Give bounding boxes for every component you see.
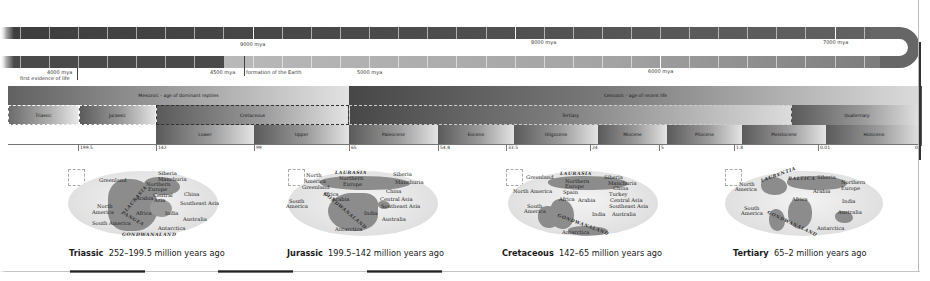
map-label: China [184, 192, 199, 198]
map-label: Africa [559, 197, 575, 203]
caption-jurassic: Jurassic 199.5–142 million years ago [287, 248, 444, 258]
axis-tick: 54.8 [438, 145, 450, 151]
segment-tick [544, 27, 545, 39]
bottom-accent [218, 270, 293, 273]
caption-triassic: Triassic 252–199.5 million years ago [69, 248, 225, 258]
segment-tick [194, 27, 195, 39]
map-label: Australia [382, 217, 406, 223]
map-panel-tertiary: LAURENTIA BALTICA Siberia North America … [725, 166, 930, 246]
map-label-supercontinent: GONDWANALAND [122, 232, 176, 238]
map-label: America [741, 211, 763, 217]
map-label: Siberia [393, 172, 412, 178]
page-left-fade [0, 0, 6, 281]
period-label: Cretaceous [240, 113, 265, 118]
map-label: Central Asia [380, 197, 413, 203]
axis-tick: 99 [254, 145, 262, 151]
axis-tick: 65 [349, 145, 357, 151]
period-triassic: Triassic [8, 105, 79, 125]
segment-tick [631, 56, 632, 68]
map-label: America [524, 209, 546, 215]
segment-tick [136, 27, 137, 39]
segment-tick [573, 27, 574, 39]
epoch-label: Lower [198, 132, 211, 137]
map-label: Australia [838, 210, 862, 216]
segment-tick [864, 27, 865, 39]
segment-tick [49, 27, 50, 39]
segment-tick [78, 56, 79, 68]
map-label: North America [513, 189, 552, 195]
epoch-label: Eocene [468, 132, 484, 137]
segment-tick [864, 56, 865, 68]
axis-tick: 199.5 [78, 145, 93, 151]
map-label: Antarctica [562, 230, 589, 236]
period-label: Quaternary [844, 113, 870, 118]
segment-tick [282, 27, 283, 39]
map-label: Southeast Asia [180, 201, 219, 207]
era-mesozoic: Mesozoic - age of dominant reptiles [8, 86, 349, 105]
map-panel-triassic: Greenland Siberia Manchuria Northern Eur… [60, 166, 270, 246]
epoch-pliocene: Pliocene [667, 125, 742, 144]
segment-tick [165, 56, 166, 68]
era-label: Cenozoic - age of recent life [604, 93, 667, 98]
map-label: Europe [841, 186, 860, 192]
page-right-bar [919, 42, 921, 160]
epoch-lower: Lower [156, 125, 254, 144]
caption-range: 252–199.5 million years ago [109, 248, 225, 258]
era-label: Mesozoic - age of dominant reptiles [138, 93, 218, 98]
epoch-label: Upper [295, 132, 309, 137]
segment-tick [486, 56, 487, 68]
label-first-evidence-of-life: first evidence of life [20, 75, 70, 81]
bottom-accent [70, 270, 145, 273]
period-label: Tertiary [562, 113, 579, 118]
segment-tick [660, 56, 661, 68]
segment-tick [398, 27, 399, 39]
segment-tick [49, 56, 50, 68]
axis-tick: 33.5 [506, 145, 518, 151]
axis-tick: 5 [659, 145, 664, 151]
axis-tick: 24 [590, 145, 598, 151]
caption-range: 199.5–142 million years ago [328, 248, 444, 258]
map-label: Africa [136, 211, 152, 217]
segment-tick [515, 56, 516, 68]
map-label: Antarctica [335, 227, 362, 233]
map-label-supercontinent: BALTICA [788, 176, 815, 182]
label-5000-mya: 5000 mya [357, 69, 382, 75]
map-label: Southeast Asia [381, 204, 420, 210]
epoch-label: Holocene [863, 132, 884, 137]
epoch-miocene: Miocene [598, 125, 667, 144]
earth-formation-marker [244, 56, 245, 76]
epoch-label: Oligocene [545, 132, 568, 137]
segment-tick [602, 27, 603, 39]
label-7000-mya: 7000 mya [823, 39, 848, 45]
segment-tick [427, 27, 428, 39]
map-label: Antarctica [817, 226, 844, 232]
epoch-oligocene: Oligocene [514, 125, 598, 144]
map-label: Asia [154, 198, 165, 204]
caption-tertiary: Tertiary 65–2 million years ago [733, 248, 867, 258]
segment-tick [340, 56, 341, 68]
placeholder-box [506, 169, 523, 186]
period-quaternary: Quaternary [792, 105, 922, 125]
caption-period: Triassic [69, 248, 103, 258]
map-label: Australia [612, 212, 636, 218]
segment-tick [835, 56, 836, 68]
segment-tick [107, 56, 108, 68]
map-panel-jurassic: North America LAURASIA Siberia Northern … [285, 166, 495, 246]
segment-tick [602, 56, 603, 68]
map-label: Greenland [526, 175, 554, 181]
map-label: Arabia [813, 189, 830, 195]
caption-period: Cretaceous [502, 248, 554, 258]
bottom-accent [367, 270, 442, 273]
segment-tick [776, 27, 777, 39]
epoch-label: Miocene [623, 132, 642, 137]
map-label: Australia [183, 217, 207, 223]
segment-tick [78, 27, 79, 39]
segment-tick [835, 27, 836, 39]
caption-cretaceous: Cretaceous 142–65 million years ago [502, 248, 662, 258]
label-9000-mya: 9000 mya [240, 41, 265, 47]
earth-history-segment [224, 56, 880, 68]
epoch-eocene: Eocene [438, 125, 514, 144]
map-label: India [165, 211, 178, 217]
geologic-time-chart: Mesozoic - age of dominant reptiles Ceno… [8, 86, 922, 146]
timeline-band-upper [0, 27, 880, 39]
